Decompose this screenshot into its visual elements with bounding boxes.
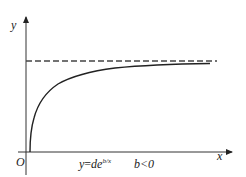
x-axis-label: x [216, 149, 223, 163]
function-graph: y O x y=deb/x b<0 [0, 0, 246, 177]
equation-base: de [91, 157, 103, 171]
equation-label: y=deb/x [78, 157, 112, 171]
y-axis-label: y [10, 18, 17, 32]
origin-label: O [16, 155, 25, 169]
condition-label: b<0 [134, 157, 154, 171]
function-curve [30, 64, 210, 153]
equation-exponent: b/x [102, 157, 111, 165]
